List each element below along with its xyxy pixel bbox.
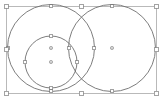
node-handle-small-left[interactable] — [24, 61, 27, 64]
handle-bottom-left[interactable] — [4, 91, 8, 95]
node-handle-small-top[interactable] — [50, 35, 53, 38]
handle-bottom-center[interactable] — [79, 91, 83, 95]
center-marker-small — [50, 61, 51, 62]
handle-top-left[interactable] — [4, 4, 8, 8]
node-handle-right-top[interactable] — [111, 5, 114, 8]
node-handle-right-left[interactable] — [68, 47, 71, 50]
handle-middle-right[interactable] — [154, 48, 158, 52]
node-handle-left-right[interactable] — [93, 47, 96, 50]
center-marker-large-left — [50, 47, 51, 48]
handle-middle-left[interactable] — [4, 48, 8, 52]
node-handle-right-bottom[interactable] — [111, 90, 114, 93]
canvas-stage[interactable] — [0, 0, 162, 104]
vector-canvas[interactable] — [0, 0, 162, 104]
handle-top-center[interactable] — [79, 4, 83, 8]
node-handle-left-bottom[interactable] — [50, 90, 53, 93]
center-marker-large-right — [111, 47, 112, 48]
handle-bottom-right[interactable] — [154, 91, 158, 95]
handle-top-right[interactable] — [154, 4, 158, 8]
node-handle-small-bottom[interactable] — [50, 87, 53, 90]
canvas-background — [0, 0, 162, 104]
node-handle-left-top[interactable] — [50, 5, 53, 8]
node-handle-small-right[interactable] — [76, 61, 79, 64]
